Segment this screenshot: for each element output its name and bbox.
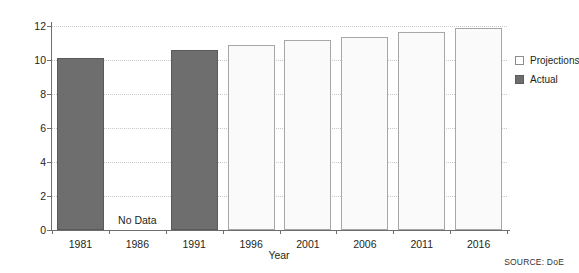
legend-item-projection: Projections [515,55,579,66]
x-tick [393,230,394,234]
x-tick [280,230,281,234]
x-tick [52,230,53,234]
y-axis-line [51,22,52,230]
legend-swatch-projection [515,56,524,65]
bar-1996 [228,45,275,230]
y-tick-label: 12 [22,21,46,32]
legend-item-actual: Actual [515,74,579,85]
bar-2006 [341,37,388,230]
x-tick [507,230,508,234]
y-tick-label: 8 [22,89,46,100]
bar-2016 [455,28,502,230]
x-axis-line [47,230,510,231]
y-tick-label: 10 [22,55,46,66]
y-tick-label: 0 [22,225,46,236]
y-tick-label: 2 [22,191,46,202]
bar-1981 [57,58,104,230]
legend-label: Actual [530,74,558,85]
x-tick [450,230,451,234]
y-tick [47,128,52,129]
x-tick [336,230,337,234]
x-axis-title: Year [44,249,514,261]
no-data-label: No Data [92,214,182,226]
bar-2011 [398,32,445,230]
y-tick [47,94,52,95]
plot-area: 024681012 No Data 1981198619911996200120… [52,26,507,230]
source-note: SOURCE: DoE [504,257,564,267]
legend: ProjectionsActual [515,55,579,93]
x-tick [166,230,167,234]
legend-swatch-actual [515,75,524,84]
x-tick [223,230,224,234]
y-tick [47,26,52,27]
x-tick [109,230,110,234]
y-tick-label: 4 [22,157,46,168]
y-tick-label: 6 [22,123,46,134]
y-tick [47,196,52,197]
legend-label: Projections [530,55,579,66]
y-tick [47,60,52,61]
bar-2001 [284,40,331,230]
gridline [52,26,507,27]
bar-1991 [171,50,218,230]
y-tick [47,162,52,163]
